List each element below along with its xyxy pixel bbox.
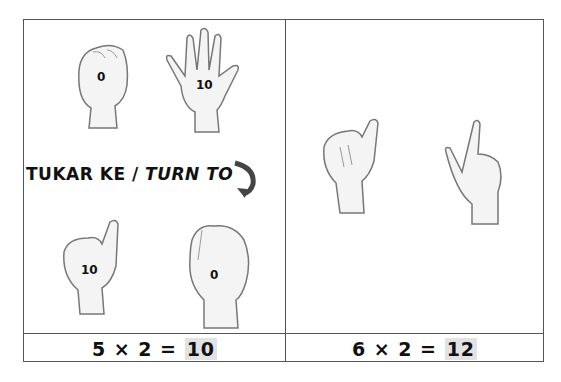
hand-label: 10 bbox=[81, 263, 98, 277]
equation-right: 6 × 2 = 12 bbox=[286, 335, 543, 362]
hand-label: 10 bbox=[196, 78, 213, 92]
equation-result: 12 bbox=[445, 338, 477, 360]
equation-expression: 5 × 2 = bbox=[92, 338, 185, 360]
worksheet-table: 0 10 TUKAR KE / TURN TO 10 0 5 × 2 = 10 … bbox=[23, 19, 544, 362]
column-divider bbox=[285, 20, 286, 361]
row-divider bbox=[24, 333, 543, 334]
equation-left: 5 × 2 = 10 bbox=[24, 335, 285, 362]
instruction-separator: / bbox=[126, 164, 146, 184]
hand-label: 0 bbox=[210, 268, 218, 282]
index-up-hand-image bbox=[442, 118, 512, 228]
equation-expression: 6 × 2 = bbox=[352, 338, 445, 360]
thumb-up-hand-image bbox=[320, 117, 388, 217]
instruction-malay: TUKAR KE bbox=[26, 164, 126, 184]
rotate-arrow-icon bbox=[231, 160, 263, 200]
hand-label: 0 bbox=[97, 70, 105, 84]
equation-result: 10 bbox=[185, 338, 217, 360]
fist-hand-image bbox=[71, 40, 133, 130]
fist-hand-image bbox=[184, 220, 254, 330]
turn-to-instruction: TUKAR KE / TURN TO bbox=[26, 164, 233, 184]
instruction-english: TURN TO bbox=[145, 164, 233, 184]
